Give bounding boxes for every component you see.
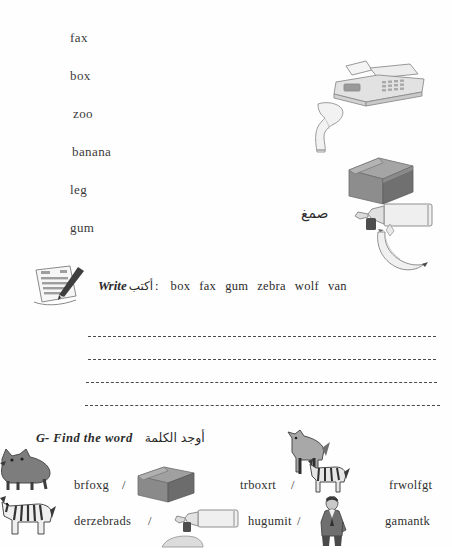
leg-image <box>312 100 350 154</box>
write-word: van <box>319 279 347 293</box>
section-letter: G- <box>36 431 49 445</box>
answer-line[interactable] <box>88 341 436 360</box>
vocabulary-word-list: fax box zoo banana leg gum <box>70 28 250 256</box>
separator-slash: / <box>122 478 125 493</box>
word-list-item: box <box>70 66 250 104</box>
write-word: gum <box>216 279 248 293</box>
write-label-ar: أكتب <box>127 279 155 293</box>
write-word: box <box>162 279 191 293</box>
zebra-image <box>0 490 56 538</box>
write-instruction-text: Writeأكتب:boxfaxgumzebrawolfvan <box>98 278 347 294</box>
find-the-word-heading: G-Find the wordأوجد الكلمة <box>36 430 205 446</box>
answer-line[interactable] <box>86 364 437 383</box>
write-label-en: Write <box>98 278 127 293</box>
glue-tube-image <box>168 504 242 536</box>
scrambled-word[interactable]: frwolfgt <box>389 478 432 493</box>
zebra-image <box>306 458 350 496</box>
cardboard-box-image <box>136 462 198 508</box>
answer-lines <box>88 318 436 410</box>
word-list-item: zoo <box>73 104 250 142</box>
find-label-en: Find the word <box>49 431 132 445</box>
scrambled-word[interactable]: hugumit <box>248 514 292 529</box>
scrambled-word[interactable]: gamantk <box>385 514 430 529</box>
notepad-pencil-image <box>30 264 92 308</box>
wolf-image <box>0 445 54 491</box>
word-list-item: gum <box>70 218 250 256</box>
answer-line[interactable] <box>88 318 436 337</box>
separator-slash: / <box>148 514 151 529</box>
word-list-item: fax <box>70 28 250 66</box>
word-list-item: banana <box>72 142 250 180</box>
scrambled-word[interactable]: trboxrt <box>240 478 276 493</box>
glue-arabic-label: صمغ <box>301 205 328 221</box>
separator-slash: / <box>297 514 300 529</box>
find-label-ar: أوجد الكلمة <box>133 430 205 445</box>
answer-line[interactable] <box>85 387 440 406</box>
write-instruction-row: Writeأكتب:boxfaxgumzebrawolfvan <box>30 264 450 310</box>
write-word: zebra <box>248 279 286 293</box>
write-word: wolf <box>286 279 319 293</box>
word-list-item: leg <box>70 180 250 218</box>
scrambled-word[interactable]: derzebrads <box>74 514 131 529</box>
write-word: fax <box>190 279 216 293</box>
write-word-bank: boxfaxgumzebrawolfvan <box>162 279 347 293</box>
scrambled-word[interactable]: brfoxg <box>74 478 109 493</box>
man-in-suit-image <box>312 496 354 546</box>
partial-image-bottom <box>160 534 204 548</box>
separator-slash: / <box>291 478 294 493</box>
